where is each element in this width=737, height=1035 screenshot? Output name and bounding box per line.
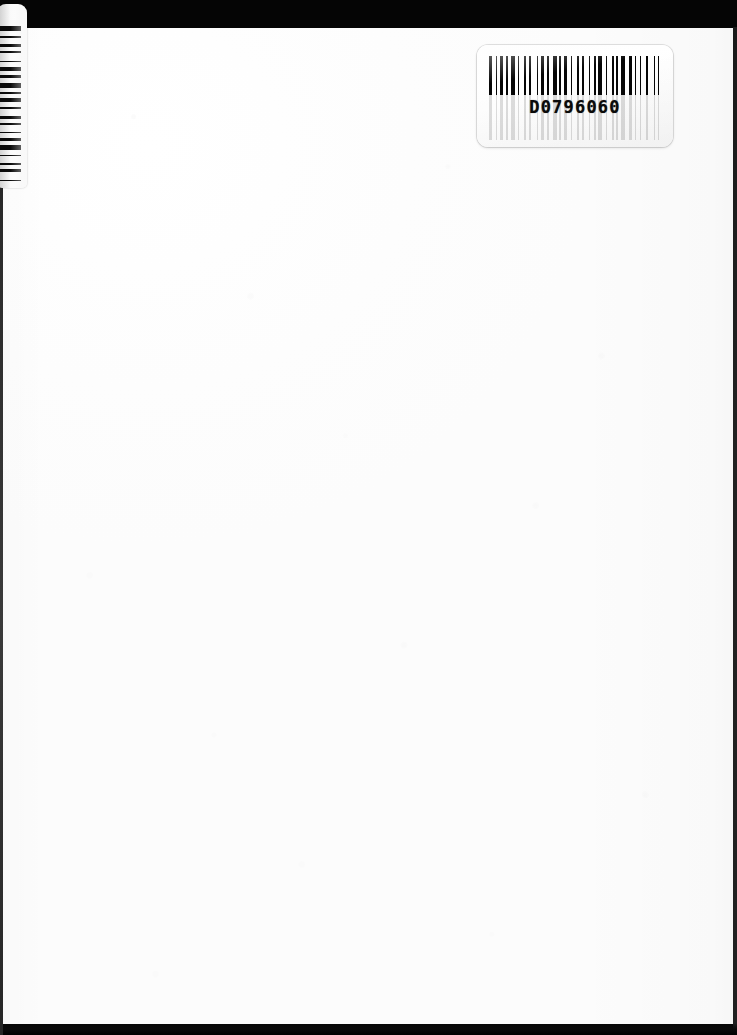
scan-shadow-right <box>733 27 737 1035</box>
edge-barcode-label <box>0 4 27 188</box>
main-barcode-label: D0796060 <box>477 45 673 147</box>
barcode-number-text: D0796060 <box>477 97 673 117</box>
page-sheet <box>2 27 733 1024</box>
scan-shadow-top <box>0 0 737 28</box>
scanned-page: D0796060 <box>0 0 737 1035</box>
page-scan-noise <box>2 27 733 1024</box>
scan-shadow-bottom <box>0 1024 737 1035</box>
edge-barcode-bars <box>0 26 21 186</box>
barcode-bars <box>489 56 664 95</box>
